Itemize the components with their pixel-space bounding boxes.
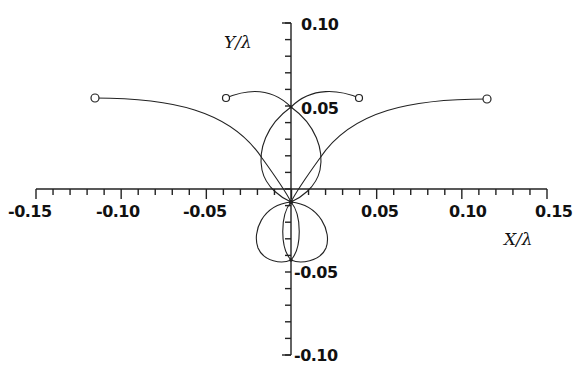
x-tick-label: -0.10: [96, 202, 140, 221]
endpoint-marker: [223, 95, 230, 102]
x-tick-label: 0.05: [361, 202, 399, 221]
endpoint-marker: [91, 94, 99, 102]
x-tick-label: 0.10: [449, 202, 487, 221]
y-tick-label: -0.05: [294, 263, 338, 282]
y-tick-label: -0.10: [294, 346, 338, 365]
endpoint-marker: [483, 95, 491, 103]
y-axis-title: Y/λ: [224, 32, 252, 52]
x-axis-title: X/λ: [502, 229, 533, 249]
endpoint-marker: [356, 95, 363, 102]
x-tick-label: -0.05: [183, 202, 227, 221]
trajectory-plot: -0.15 -0.10 -0.05 0.05 0.10 0.15 0.10 0.…: [0, 0, 588, 378]
junction-point: [289, 200, 293, 204]
inner-trajectory-left: [226, 92, 291, 107]
x-tick-label: 0.15: [535, 202, 573, 221]
y-tick-label: 0.05: [301, 99, 339, 118]
junction-point: [289, 105, 292, 108]
x-tick-label: -0.15: [8, 202, 52, 221]
y-tick-label: 0.10: [301, 15, 339, 34]
junction-point: [289, 258, 293, 262]
